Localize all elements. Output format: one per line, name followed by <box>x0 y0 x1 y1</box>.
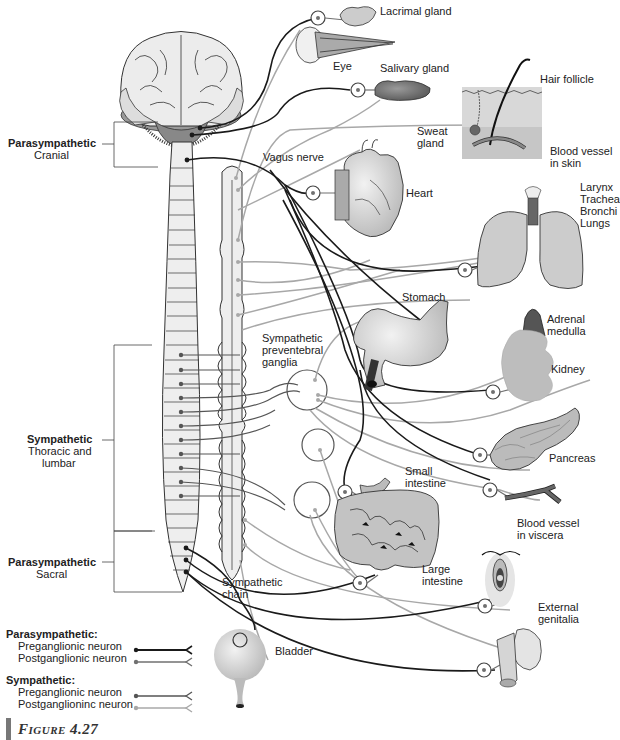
brain <box>120 32 244 148</box>
legend-symp-pre: Preganglionic neuron <box>6 686 133 698</box>
label-sweat-gland-2: gland <box>417 137 444 150</box>
figure-caption: Figure 4.27 <box>6 718 98 740</box>
kidney <box>502 330 554 401</box>
external-genitalia-male <box>497 629 541 687</box>
lacrimal-gland <box>340 7 376 26</box>
lungs <box>477 187 583 289</box>
salivary-gland <box>375 81 430 101</box>
external-genitalia-female <box>482 552 520 608</box>
division-label-sympathetic-subtitle2: lumbar <box>42 457 76 470</box>
label-kidney: Kidney <box>551 363 585 376</box>
label-blood-vessel-viscera-2: in viscera <box>517 529 563 542</box>
skin-section <box>462 60 542 159</box>
legend-para-pre: Preganglionic neuron <box>6 640 133 652</box>
large-intestine <box>334 490 439 570</box>
label-blood-vessel-skin-2: in skin <box>550 157 581 170</box>
label-large-intestine-2: intestine <box>422 575 463 588</box>
label-adrenal-2: medulla <box>547 325 586 338</box>
label-pancreas: Pancreas <box>549 452 595 465</box>
sympathetic-chain <box>218 166 246 580</box>
label-salivary-gland: Salivary gland <box>380 62 449 75</box>
label-vagus-nerve: Vagus nerve <box>263 151 324 164</box>
label-preventebral-3: ganglia <box>262 356 297 369</box>
legend-parasympathetic-heading: Parasympathetic: <box>6 628 133 640</box>
legend-symp-post: Postganglioninc neuron <box>6 698 133 710</box>
stomach <box>354 300 448 390</box>
caption-bar <box>6 718 11 740</box>
label-lacrimal-gland: Lacrimal gland <box>380 5 452 18</box>
figure-label: Figure 4.27 <box>18 721 98 738</box>
label-hair-follicle: Hair follicle <box>540 73 594 86</box>
division-label-cranial-subtitle: Cranial <box>34 149 69 162</box>
legend-para-post: Postganglionic neuron <box>6 652 133 664</box>
label-heart: Heart <box>406 187 433 200</box>
heart <box>335 140 403 237</box>
label-chain-2: chain <box>222 588 248 601</box>
label-small-intestine-2: intestine <box>405 477 446 490</box>
legend-line-samples <box>134 646 192 712</box>
legend: Parasympathetic: Preganglionic neuron Po… <box>6 628 133 710</box>
bladder <box>214 629 266 708</box>
label-bladder: Bladder <box>275 645 313 658</box>
label-eye: Eye <box>333 60 352 73</box>
legend-sympathetic-heading: Sympathetic: <box>6 674 133 686</box>
division-label-sacral-subtitle: Sacral <box>36 568 67 581</box>
spinal-cord <box>162 142 200 592</box>
label-lungs: Lungs <box>580 217 610 230</box>
prevertebral-ganglia <box>287 370 334 518</box>
label-genitalia-2: genitalia <box>538 613 579 626</box>
eye <box>296 27 395 63</box>
label-stomach: Stomach <box>402 291 445 304</box>
